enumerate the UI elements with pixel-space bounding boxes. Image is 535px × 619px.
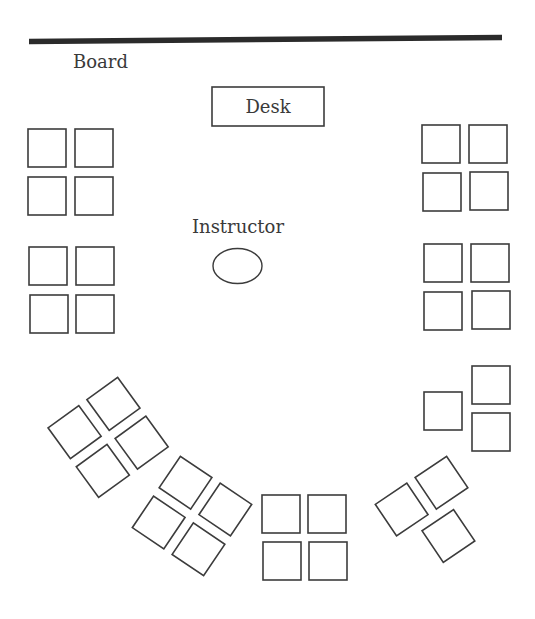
seat (75, 177, 113, 215)
seat (375, 483, 428, 536)
left-front-group (28, 129, 113, 215)
seat (159, 456, 212, 509)
board-line (29, 38, 502, 42)
right-middle-group (424, 244, 510, 330)
left-back-group (48, 377, 168, 497)
seat (87, 377, 140, 430)
desk-label: Desk (245, 96, 291, 117)
seat (28, 177, 66, 215)
seat (309, 542, 347, 580)
seat (472, 366, 510, 404)
instructor-label: Instructor (192, 216, 285, 237)
seat (28, 129, 66, 167)
seat (424, 392, 462, 430)
seat (76, 444, 129, 497)
seat (172, 523, 225, 576)
seat (415, 456, 468, 509)
seat (263, 542, 301, 580)
seat (262, 495, 300, 533)
seat (48, 406, 101, 459)
left-middle-group (29, 247, 114, 333)
instructor-position (213, 249, 262, 284)
seat (423, 173, 461, 211)
seat (424, 292, 462, 330)
seat (422, 510, 475, 563)
seat (472, 291, 510, 329)
seat (471, 244, 509, 282)
seat (199, 483, 252, 536)
seat (470, 172, 508, 210)
bottom-center-group (262, 495, 347, 580)
right-front-group (422, 125, 508, 211)
seat (132, 496, 185, 549)
seat (472, 413, 510, 451)
seat (424, 244, 462, 282)
seat (469, 125, 507, 163)
bottom-right-group (375, 456, 494, 575)
seat (76, 247, 114, 285)
right-back-group (424, 366, 510, 451)
seat (76, 295, 114, 333)
board-label: Board (73, 51, 128, 72)
seat (29, 247, 67, 285)
bottom-left-group (132, 456, 251, 575)
seat-groups (28, 125, 510, 580)
seat (30, 295, 68, 333)
seat (308, 495, 346, 533)
seat (75, 129, 113, 167)
seat (115, 416, 168, 469)
seat (422, 125, 460, 163)
classroom-diagram: Board Desk Instructor (0, 0, 535, 619)
